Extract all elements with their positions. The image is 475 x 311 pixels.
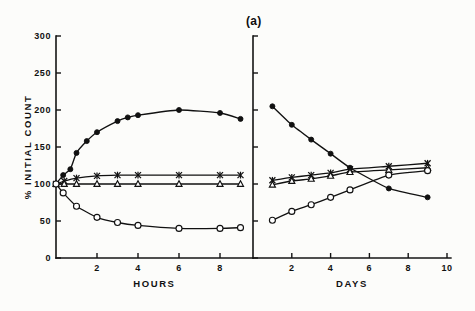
y-axis-title: % INITIAL COUNT xyxy=(22,95,33,200)
right-filled-circle-marker-filled-circle xyxy=(309,137,314,142)
left-filled-circle-marker-filled-circle xyxy=(68,167,73,172)
right-x-tick-label: 2 xyxy=(289,263,295,273)
left-open-circle-marker-open-circle xyxy=(60,190,66,196)
right-panel-days-chart: 246810DAYS xyxy=(253,36,453,289)
left-series-line-open-circle xyxy=(56,184,241,229)
left-open-circle-marker-open-circle xyxy=(94,214,100,220)
right-x-tick-label: 6 xyxy=(367,263,373,273)
left-x-axis-title: HOURS xyxy=(133,278,175,289)
left-open-triangle-marker-open-triangle xyxy=(237,181,243,187)
left-filled-circle-marker-filled-circle xyxy=(84,139,89,144)
left-filled-circle-marker-filled-circle xyxy=(177,108,182,113)
left-open-circle-marker-open-circle xyxy=(217,225,223,231)
right-filled-circle-marker-filled-circle xyxy=(270,104,275,109)
right-open-circle-marker-open-circle xyxy=(347,187,353,193)
right-open-circle-marker-open-circle xyxy=(425,168,431,174)
right-filled-circle-marker-filled-circle xyxy=(328,151,333,156)
right-open-circle-marker-open-circle xyxy=(308,202,314,208)
left-filled-circle-marker-filled-circle xyxy=(95,130,100,135)
left-open-triangle-marker-open-triangle xyxy=(73,181,79,187)
right-filled-circle-marker-filled-circle xyxy=(425,195,430,200)
left-open-circle-marker-open-circle xyxy=(74,203,80,209)
left-y-tick-label: 0 xyxy=(45,253,51,263)
left-open-circle-marker-open-circle xyxy=(238,225,244,231)
left-series-line-filled-circle xyxy=(56,110,241,184)
left-open-circle-marker-open-circle xyxy=(53,181,59,187)
left-y-tick-label: 150 xyxy=(34,142,51,152)
left-y-tick-label: 50 xyxy=(40,216,51,226)
right-series-line-filled-circle xyxy=(272,106,427,197)
scientific-figure: (a) 0501001502002503002468HOURS% INITIAL… xyxy=(0,0,475,311)
right-x-tick-label: 8 xyxy=(405,263,411,273)
left-filled-circle-marker-filled-circle xyxy=(218,110,223,115)
right-open-circle-marker-open-circle xyxy=(289,208,295,214)
right-series-filled-circle xyxy=(270,104,430,200)
left-x-tick-label: 8 xyxy=(217,263,223,273)
right-x-tick-label: 10 xyxy=(441,263,452,273)
right-open-circle-marker-open-circle xyxy=(386,172,392,178)
right-filled-circle-marker-filled-circle xyxy=(386,186,391,191)
left-open-triangle-marker-open-triangle xyxy=(217,181,223,187)
left-filled-circle-marker-filled-circle xyxy=(238,116,243,121)
left-x-tick-label: 6 xyxy=(176,263,182,273)
left-series-cross xyxy=(53,172,244,188)
left-x-tick-label: 2 xyxy=(94,263,100,273)
panel-label: (a) xyxy=(246,14,262,28)
right-open-circle-marker-open-circle xyxy=(269,217,275,223)
right-x-axis-title: DAYS xyxy=(336,278,368,289)
left-series-line-cross xyxy=(56,175,241,184)
left-series-open-circle xyxy=(53,181,244,231)
left-filled-circle-marker-filled-circle xyxy=(136,113,141,118)
left-open-circle-marker-open-circle xyxy=(135,222,141,228)
right-series-line-open-circle xyxy=(272,171,427,221)
figure-container: (a) 0501001502002503002468HOURS% INITIAL… xyxy=(0,0,475,311)
left-open-triangle-marker-open-triangle xyxy=(176,181,182,187)
left-filled-circle-marker-filled-circle xyxy=(115,119,120,124)
left-panel-hours-chart: 0501001502002503002468HOURS% INITIAL COU… xyxy=(22,31,253,289)
left-open-triangle-marker-open-triangle xyxy=(135,181,141,187)
left-y-tick-label: 100 xyxy=(34,179,51,189)
right-x-tick-label: 4 xyxy=(328,263,334,273)
left-open-circle-marker-open-circle xyxy=(176,225,182,231)
left-series-open-triangle xyxy=(53,181,244,187)
left-y-tick-label: 200 xyxy=(34,105,51,115)
left-x-tick-label: 4 xyxy=(135,263,141,273)
left-open-triangle-marker-open-triangle xyxy=(94,181,100,187)
left-filled-circle-marker-filled-circle xyxy=(61,173,66,178)
left-y-tick-label: 250 xyxy=(34,68,51,78)
left-filled-circle-marker-filled-circle xyxy=(125,115,130,120)
left-filled-circle-marker-filled-circle xyxy=(74,150,79,155)
left-open-triangle-marker-open-triangle xyxy=(114,181,120,187)
left-open-circle-marker-open-circle xyxy=(115,219,121,225)
right-filled-circle-marker-filled-circle xyxy=(289,122,294,127)
left-y-tick-label: 300 xyxy=(34,31,51,41)
right-open-circle-marker-open-circle xyxy=(328,194,334,200)
